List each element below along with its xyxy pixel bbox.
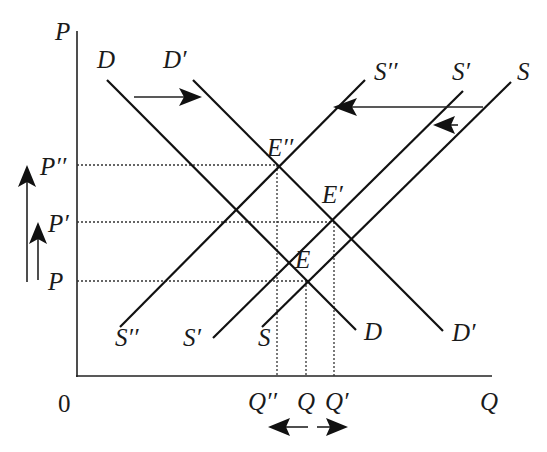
label-price-p: P	[47, 268, 63, 295]
supply-demand-diagram: P Q 0 D D′ S S′ S′′ D D′ S S′ S′′ E E′ E…	[0, 0, 547, 452]
label-equilibrium-e2: E′′	[266, 134, 294, 161]
supply-curve-s1	[213, 91, 463, 338]
x-axis-label: Q	[480, 388, 498, 415]
origin-label: 0	[58, 390, 71, 417]
label-quantity-q1: Q′	[325, 388, 349, 415]
label-d1-top: D′	[162, 46, 187, 73]
label-d-bottom: D	[363, 318, 382, 345]
supply-shift-large-arrow	[333, 98, 483, 116]
label-price-p1: P′	[47, 210, 69, 237]
quantity-decrease-arrow	[268, 418, 308, 436]
label-quantity-q2: Q′′	[248, 388, 278, 415]
label-equilibrium-e1: E′	[321, 181, 343, 208]
price-rise-small-arrow	[29, 222, 47, 280]
label-s-top: S	[517, 58, 530, 85]
price-rise-large-arrow	[18, 165, 36, 282]
y-axis-label: P	[54, 18, 70, 45]
label-s2-bottom: S′′	[115, 324, 139, 351]
supply-shift-small-arrow	[433, 116, 458, 134]
label-s1-bottom: S′	[183, 324, 202, 351]
label-d-top: D	[96, 46, 115, 73]
supply-curve-s	[262, 82, 511, 327]
label-price-p2: P′′	[39, 153, 67, 180]
label-s-bottom: S	[258, 324, 271, 351]
quantity-increase-arrow	[317, 418, 348, 436]
label-equilibrium-e: E	[294, 246, 310, 273]
label-s1-top: S′	[452, 58, 471, 85]
label-d1-bottom: D′	[451, 319, 476, 346]
label-quantity-q: Q	[297, 388, 315, 415]
demand-shift-arrow	[134, 88, 202, 106]
label-s2-top: S′′	[374, 58, 398, 85]
